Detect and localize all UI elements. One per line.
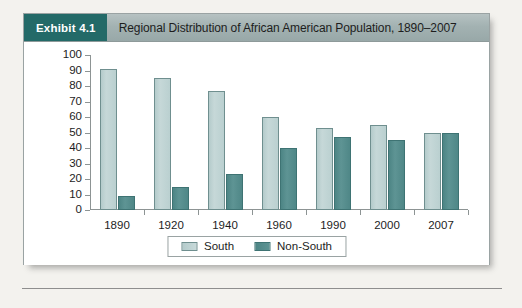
bar-south-1920 (154, 78, 171, 210)
legend-swatch-non-south-icon (254, 242, 270, 251)
y-axis-tick (85, 55, 90, 56)
legend-swatch-south-icon (181, 242, 197, 251)
bar-non-south-1990 (334, 137, 351, 210)
x-axis-tick (468, 210, 469, 215)
page-divider-rule (22, 288, 502, 289)
y-axis-tick-label: 90 (69, 65, 82, 77)
y-axis-tick-label: 60 (69, 111, 82, 123)
y-axis-tick (85, 117, 90, 118)
x-axis-tick (414, 210, 415, 215)
chart-legend: South Non-South (167, 236, 346, 258)
y-axis-tick-label: 20 (69, 173, 82, 185)
y-axis-tick-label: 70 (69, 96, 82, 108)
x-axis-label-2007: 2007 (428, 220, 454, 232)
bar-south-2007 (424, 133, 441, 211)
exhibit-number-badge: Exhibit 4.1 (24, 14, 107, 41)
y-axis-tick (85, 210, 90, 211)
legend-item-non-south: Non-South (254, 241, 332, 253)
y-axis-tick (85, 133, 90, 134)
bar-south-1960 (262, 117, 279, 210)
y-axis-tick-label: 0 (76, 204, 82, 216)
chart-body: 0102030405060708090100 18901920194019601… (24, 42, 489, 265)
y-axis-tick-label: 50 (69, 127, 82, 139)
y-axis-tick-label: 100 (63, 49, 82, 61)
x-axis-tick (360, 210, 361, 215)
x-axis-label-1990: 1990 (320, 220, 346, 232)
bar-chart-plot: 0102030405060708090100 18901920194019601… (90, 55, 468, 210)
exhibit-panel: Exhibit 4.1 Regional Distribution of Afr… (23, 13, 490, 265)
y-axis-tick (85, 86, 90, 87)
x-axis-label-1920: 1920 (158, 220, 184, 232)
bar-non-south-2007 (442, 133, 459, 211)
y-axis-tick-label: 40 (69, 142, 82, 154)
bar-south-1890 (100, 69, 117, 210)
bar-south-2000 (370, 125, 387, 210)
y-axis-tick-label: 10 (69, 189, 82, 201)
x-axis-tick (252, 210, 253, 215)
y-axis-tick (85, 102, 90, 103)
x-axis-tick (306, 210, 307, 215)
bar-non-south-1940 (226, 174, 243, 210)
y-axis-tick-label: 30 (69, 158, 82, 170)
legend-label-south: South (204, 241, 234, 253)
bar-non-south-1960 (280, 148, 297, 210)
bar-non-south-1890 (118, 196, 135, 210)
x-axis-label-1940: 1940 (212, 220, 238, 232)
plot-area: 0102030405060708090100 18901920194019601… (90, 55, 468, 210)
y-axis-line (90, 55, 91, 210)
y-axis-tick (85, 148, 90, 149)
y-axis-tick (85, 71, 90, 72)
y-axis-tick (85, 195, 90, 196)
legend-item-south: South (181, 241, 234, 253)
x-axis-tick (198, 210, 199, 215)
bar-non-south-2000 (388, 140, 405, 210)
exhibit-title: Regional Distribution of African America… (107, 14, 489, 41)
exhibit-header: Exhibit 4.1 Regional Distribution of Afr… (24, 14, 489, 42)
bar-non-south-1920 (172, 187, 189, 210)
x-axis-label-1890: 1890 (104, 220, 130, 232)
legend-label-non-south: Non-South (277, 241, 332, 253)
x-axis-tick (144, 210, 145, 215)
x-axis-label-1960: 1960 (266, 220, 292, 232)
y-axis-tick-label: 80 (69, 80, 82, 92)
y-axis-tick (85, 164, 90, 165)
x-axis-label-2000: 2000 (374, 220, 400, 232)
bar-south-1940 (208, 91, 225, 210)
y-axis-tick (85, 179, 90, 180)
bar-south-1990 (316, 128, 333, 210)
